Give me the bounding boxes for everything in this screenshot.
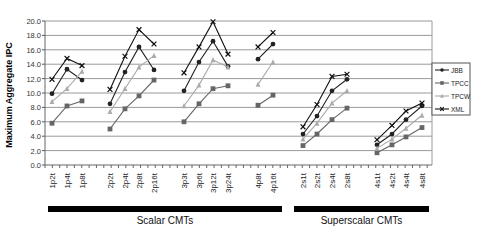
x-marker (50, 77, 55, 82)
diamond-marker (271, 42, 276, 47)
x-tick-label: 4p16t (269, 172, 278, 193)
group-label: Superscalar CMTs (321, 215, 403, 226)
square-marker (197, 101, 202, 106)
series-line (258, 62, 273, 84)
square-marker (182, 119, 187, 124)
square-marker (440, 81, 444, 85)
diamond-marker (211, 39, 216, 44)
series-line (184, 22, 228, 73)
x-tick-label: 2s4t (328, 172, 337, 188)
x-marker (211, 19, 216, 24)
triangle-marker (137, 64, 142, 69)
x-marker (226, 52, 231, 57)
x-marker (375, 137, 380, 142)
square-marker (301, 143, 306, 148)
square-marker (420, 125, 425, 130)
triangle-marker (271, 59, 276, 64)
y-tick-label: 2.0 (31, 147, 41, 156)
triangle-marker (330, 100, 335, 105)
y-tick-label: 14.0 (26, 60, 41, 69)
x-tick-label: 4s8t (418, 172, 427, 188)
diamond-marker (65, 67, 70, 72)
diamond-marker (315, 114, 320, 119)
x-tick-label: 1p4t (63, 172, 72, 188)
series-line (258, 44, 273, 59)
legend-label: TPCC (451, 80, 469, 87)
y-axis-label: Maximum Aggregate IPC (4, 42, 14, 148)
x-tick-label: 2p16t (150, 172, 159, 193)
gridlines (45, 21, 432, 151)
triangle-marker (152, 53, 157, 58)
series-line (303, 108, 347, 146)
diamond-marker (50, 91, 55, 96)
series-lines (50, 19, 425, 155)
group-bar (48, 206, 282, 212)
x-tick-label: 4s1t (373, 172, 382, 188)
y-tick-label: 16.0 (26, 46, 41, 55)
x-tick-label: 2p2t (106, 172, 115, 188)
square-marker (256, 103, 261, 108)
diamond-marker (182, 88, 187, 93)
series-line (377, 106, 422, 145)
x-tick-label: 3p24t (224, 172, 233, 193)
x-marker (197, 45, 202, 50)
diamond-marker (345, 77, 350, 82)
triangle-marker (345, 88, 350, 93)
x-marker (256, 45, 261, 50)
x-tick-label: 1p8t (78, 172, 87, 188)
y-tick-label: 12.0 (26, 75, 41, 84)
category-group-bars: Scalar CMTsSuperscalar CMTs (48, 206, 429, 226)
square-marker (152, 78, 157, 83)
x-marker (108, 87, 113, 92)
square-marker (330, 117, 335, 122)
x-marker (182, 70, 187, 75)
y-tick-label: 10.0 (26, 89, 41, 98)
x-tick-label: 3p6t (195, 172, 204, 188)
diamond-marker (330, 88, 335, 93)
diamond-marker (197, 60, 202, 65)
x-tick-label: 2p4t (121, 172, 130, 188)
square-marker (80, 99, 85, 104)
legend-label: TPCW (451, 93, 471, 100)
square-marker (226, 83, 231, 88)
x-marker (315, 102, 320, 107)
triangle-marker (404, 125, 409, 130)
x-tick-labels: 1p2t1p4t1p8t2p2t2p4t2p8t2p16t3p3t3p6t3p1… (48, 172, 427, 193)
square-marker (137, 93, 142, 98)
y-tick-label: 20.0 (26, 17, 41, 26)
x-tick-label: 2s8t (343, 172, 352, 188)
legend-label: JBB (451, 67, 463, 74)
diamond-marker (256, 57, 261, 62)
group-bar (294, 206, 429, 212)
square-marker (404, 135, 409, 140)
square-marker (390, 142, 395, 147)
y-tick-label: 8.0 (31, 103, 41, 112)
square-marker (271, 93, 276, 98)
x-marker (152, 42, 157, 47)
x-marker (390, 123, 395, 128)
square-marker (123, 106, 128, 111)
diamond-marker (404, 117, 409, 122)
square-marker (65, 104, 70, 109)
square-marker (345, 106, 350, 111)
ipc-line-chart: 0.02.04.06.08.010.012.014.016.018.020.0 … (0, 0, 483, 236)
legend-label: XML (451, 106, 465, 113)
y-tick-label: 0.0 (31, 161, 41, 170)
x-tick-label: 4p8t (254, 172, 263, 188)
x-marker (123, 54, 128, 59)
series-line (184, 41, 228, 91)
legend: JBBTPCCTPCWXML (432, 63, 471, 115)
x-marker (404, 109, 409, 114)
y-tick-label: 6.0 (31, 118, 41, 127)
x-marker (137, 27, 142, 32)
diamond-marker (440, 68, 444, 72)
triangle-marker (390, 136, 395, 141)
square-marker (108, 127, 113, 132)
diamond-marker (123, 70, 128, 75)
square-marker (211, 86, 216, 91)
x-tick-label: 4s4t (402, 172, 411, 188)
x-marker (271, 30, 276, 35)
diamond-marker (137, 45, 142, 50)
diamond-marker (301, 132, 306, 137)
series-line (184, 86, 228, 122)
